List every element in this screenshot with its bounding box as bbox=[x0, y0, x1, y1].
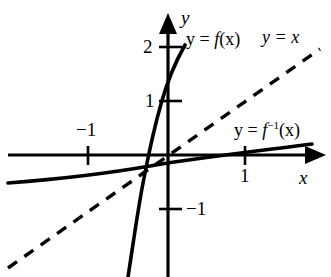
curve-f-inverse bbox=[8, 144, 312, 183]
x-axis-arrow-icon bbox=[305, 146, 326, 164]
x-tick-label-1: 1 bbox=[240, 166, 250, 185]
curve-label-f-inverse-prefix: y = bbox=[234, 120, 262, 140]
y-axis-label: y bbox=[181, 8, 189, 27]
curve-label-f-prefix: y = bbox=[186, 29, 214, 49]
curve-label-f-arg: (x) bbox=[219, 29, 240, 49]
y-tick-label-neg1: −1 bbox=[186, 199, 206, 218]
curve-label-f-inverse: y = f−1(x) bbox=[234, 120, 300, 139]
y-axis bbox=[159, 13, 182, 277]
curve-label-f: y = f(x) bbox=[186, 30, 240, 48]
curve-label-f-inverse-exponent: −1 bbox=[267, 119, 279, 131]
x-axis-label: x bbox=[299, 168, 307, 187]
y-tick-label-1: 1 bbox=[145, 91, 155, 110]
curve-label-identity: y = x bbox=[262, 28, 299, 46]
identity-line-y-equals-x bbox=[8, 49, 320, 268]
y-axis-arrow-icon bbox=[159, 13, 177, 34]
x-tick-label-neg1: −1 bbox=[76, 120, 96, 139]
graph-figure: y x 2 1 −1 −1 1 y = f(x) y = x y = f−1(x… bbox=[0, 0, 331, 277]
curve-label-f-inverse-arg: (x) bbox=[279, 120, 300, 140]
y-tick-label-2: 2 bbox=[143, 37, 153, 56]
